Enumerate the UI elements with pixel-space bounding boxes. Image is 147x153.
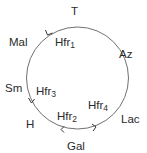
marker-Mal: Mal: [9, 37, 28, 49]
marker-Sm: Sm: [5, 83, 22, 95]
arrow-hfr4-icon: [92, 124, 96, 131]
hfr3-label: Hfr3: [36, 86, 56, 98]
marker-T: T: [71, 6, 78, 18]
hfr1-label: Hfr1: [55, 37, 75, 49]
hfr2-label: Hfr2: [57, 111, 77, 123]
marker-Az: Az: [119, 49, 132, 61]
hfr4-label: Hfr4: [88, 100, 108, 112]
chromosome-circle-svg: [0, 0, 147, 153]
chromosome-map: T Az Lac Gal H Sm Mal Hfr1 Hfr3 Hfr2 Hfr…: [0, 0, 147, 153]
marker-Gal: Gal: [67, 141, 85, 153]
chromosome-circle: [27, 27, 129, 129]
marker-H: H: [26, 119, 34, 131]
arrow-hfr2-icon: [61, 127, 64, 133]
marker-Lac: Lac: [121, 114, 140, 126]
